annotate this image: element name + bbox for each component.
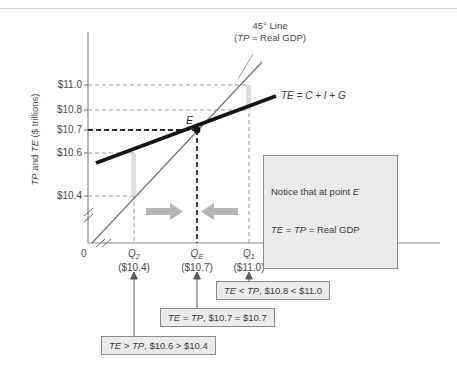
y-axis-title: TP and TE ($ trillions) (29, 80, 40, 200)
line-45-annotation: 45° Line (TP = Real GDP) (205, 20, 335, 45)
arrow-right-icon (146, 203, 183, 220)
y-tick-label-11-0: $11.0 (38, 79, 82, 91)
x-tick-q2-subscript: 2 (136, 252, 140, 261)
callout-q2-te-greater-tp: TE > TP, $10.6 > $10.4 (101, 336, 216, 355)
line-45-leader (238, 54, 253, 79)
equilibrium-point-marker (194, 127, 201, 134)
notice-line-1-italic-e: E (353, 186, 359, 197)
callout-qe-rest: , $10.7 = $10.7 (203, 312, 267, 323)
line-45-subtitle: (TP = Real GDP) (205, 32, 335, 44)
adjustment-arrows (146, 203, 238, 220)
notice-line-2-italic-te: TE (271, 224, 283, 235)
gap-band-q2 (131, 153, 136, 196)
y-tick-label-10-8: $10.8 (38, 104, 82, 116)
notice-line-2-rest: = Real GDP (306, 224, 360, 235)
leader-qe-arrowhead (194, 272, 201, 279)
x-tick-label-qe: QE ($10.7) (167, 248, 227, 273)
x-tick-q2-symbol: Q (128, 248, 136, 259)
y-tick-label-10-7: $10.7 (38, 124, 82, 136)
callout-qe-te-equals-tp: TE = TP, $10.7 = $10.7 (160, 308, 275, 327)
te-line-label: TE = C + I + G (281, 90, 346, 101)
vertical-guide-lines (134, 85, 249, 243)
x-tick-q2-value: ($10.4) (104, 262, 164, 273)
x-tick-label-q2: Q2 ($10.4) (104, 248, 164, 273)
y-axis-title-italic-a: TP (29, 173, 40, 185)
callout-q2-italic: TE > TP (109, 340, 144, 351)
notice-line-1-prefix: Notice that at point (271, 186, 353, 197)
notice-line-2-italic-tp: TP (294, 224, 306, 235)
leader-q2-arrowhead (131, 272, 138, 279)
line-45-subtitle-italic: TP (237, 32, 249, 43)
callout-q2-rest: , $10.6 > $10.4 (144, 340, 208, 351)
arrow-left-icon (201, 203, 238, 220)
line-45-title: 45° Line (205, 20, 335, 32)
notice-line-2-mid: = (283, 224, 294, 235)
figure-root: TP and TE ($ trillions) $11.0 $10.8 $10.… (0, 0, 457, 368)
leader-q1-arrowhead (246, 272, 253, 279)
x-tick-qe-value: ($10.7) (167, 262, 227, 273)
callout-q1-te-less-tp: TE < TP, $10.8 < $11.0 (216, 281, 330, 300)
notice-box: Notice that at point E TE = TP = Real GD… (263, 155, 398, 269)
notice-line-2: TE = TP = Real GDP (271, 224, 390, 237)
y-tick-label-10-4: $10.4 (38, 190, 82, 202)
callout-q1-rest: , $10.8 < $11.0 (259, 285, 322, 296)
y-tick-label-10-6: $10.6 (38, 147, 82, 159)
callout-qe-italic: TE = TP (168, 312, 203, 323)
callout-q1-italic: TE < TP (224, 285, 259, 296)
gap-bands (131, 85, 251, 196)
equilibrium-point-label: E (186, 114, 193, 126)
line-45-subtitle-rest: = Real GDP (249, 32, 303, 43)
x-tick-q1-subscript: 1 (251, 252, 255, 261)
notice-line-1: Notice that at point E (271, 186, 390, 199)
x-tick-qe-subscript: E (198, 252, 203, 261)
origin-zero-label: 0 (81, 248, 87, 259)
x-tick-q1-symbol: Q (243, 248, 251, 259)
